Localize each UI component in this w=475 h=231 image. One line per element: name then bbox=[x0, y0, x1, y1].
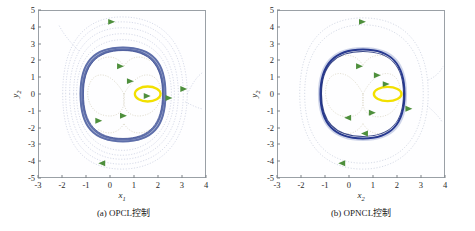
ytick-label: -1 bbox=[267, 107, 274, 116]
xtick-label: -2 bbox=[58, 181, 65, 190]
ytick-label: -2 bbox=[28, 123, 35, 132]
ytick-label: 3 bbox=[270, 39, 274, 48]
ytick-label: 4 bbox=[31, 23, 35, 32]
xtick-label: 1 bbox=[132, 181, 136, 190]
ytick-label: 1 bbox=[270, 73, 274, 82]
xtick-label: 1 bbox=[371, 181, 375, 190]
y-axis-label-b: y2 bbox=[248, 90, 260, 97]
x-axis-label-a: x1 bbox=[118, 190, 125, 202]
xtick-label: 2 bbox=[395, 181, 399, 190]
ytick-label: 0 bbox=[31, 90, 35, 99]
ytick-label: 2 bbox=[31, 56, 35, 65]
panel-caption-b: (b) OPNCL控制 bbox=[237, 206, 475, 219]
target-orbit-ellipse-b bbox=[374, 87, 402, 101]
ytick-label: -3 bbox=[267, 140, 274, 149]
ytick-label: -3 bbox=[28, 140, 35, 149]
ytick-label: 5 bbox=[31, 6, 35, 15]
ytick-label: 0 bbox=[270, 90, 274, 99]
panel-opcl: 5 4 3 2 1 0 -1 -2 -3 -4 -5 -3 -2 -1 0 1 … bbox=[0, 0, 237, 231]
ytick-label: 1 bbox=[31, 73, 35, 82]
xtick-label: -2 bbox=[297, 181, 304, 190]
ytick-label: 3 bbox=[31, 39, 35, 48]
panel-opncl: 5 4 3 2 1 0 -1 -2 -3 -4 -5 -3 -2 -1 0 1 … bbox=[237, 0, 475, 231]
ytick-label: 4 bbox=[270, 23, 274, 32]
xtick-label: -1 bbox=[321, 181, 328, 190]
plot-area-a: 5 4 3 2 1 0 -1 -2 -3 -4 -5 -3 -2 -1 0 1 … bbox=[38, 10, 206, 178]
xtick-label: 3 bbox=[419, 181, 423, 190]
axes-frame-a bbox=[38, 10, 206, 178]
phase-portrait-curves-b bbox=[278, 11, 444, 177]
ytick-label: -4 bbox=[267, 157, 274, 166]
xtick-label: -3 bbox=[34, 181, 41, 190]
xtick-label: 0 bbox=[347, 181, 351, 190]
y-axis-label-a: y2 bbox=[9, 90, 21, 97]
xtick-label: -1 bbox=[82, 181, 89, 190]
ytick-label: -2 bbox=[267, 123, 274, 132]
plot-area-b: 5 4 3 2 1 0 -1 -2 -3 -4 -5 -3 -2 -1 0 1 … bbox=[277, 10, 445, 178]
ytick-label: -1 bbox=[28, 107, 35, 116]
figure-row: 5 4 3 2 1 0 -1 -2 -3 -4 -5 -3 -2 -1 0 1 … bbox=[0, 0, 475, 231]
xtick-label: 2 bbox=[156, 181, 160, 190]
ytick-label: -4 bbox=[28, 157, 35, 166]
phase-portrait-curves-a bbox=[39, 11, 205, 177]
target-orbit-ellipse-a bbox=[135, 86, 161, 101]
xtick-label: -3 bbox=[273, 181, 280, 190]
axes-frame-b bbox=[277, 10, 445, 178]
xtick-label: 3 bbox=[180, 181, 184, 190]
x-axis-label-b: x2 bbox=[357, 190, 364, 202]
xtick-label: 4 bbox=[443, 181, 447, 190]
xtick-label: 0 bbox=[108, 181, 112, 190]
xtick-label: 4 bbox=[204, 181, 208, 190]
panel-caption-a: (a) OPCL控制 bbox=[0, 206, 237, 219]
ytick-label: 2 bbox=[270, 56, 274, 65]
ytick-label: 5 bbox=[270, 6, 274, 15]
